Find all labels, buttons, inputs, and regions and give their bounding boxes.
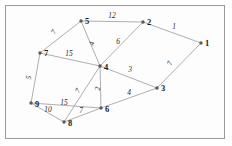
graph-figure: 1217746155327151074 123456789 bbox=[0, 0, 232, 146]
graph-canvas: 1217746155327151074 123456789 bbox=[0, 0, 232, 146]
edge-weight-label: 4 bbox=[127, 88, 131, 97]
node-label: 2 bbox=[147, 17, 151, 27]
graph-node bbox=[98, 64, 101, 67]
node-label: 5 bbox=[85, 16, 89, 26]
edge-weight-label: 15 bbox=[60, 98, 68, 107]
graph-node bbox=[141, 20, 144, 23]
edge-weight-label: 7 bbox=[49, 28, 59, 36]
node-label: 4 bbox=[104, 62, 109, 72]
graph-edge bbox=[81, 21, 143, 22]
edge-weight-label: 7 bbox=[165, 60, 175, 67]
edge-weight-label: 7 bbox=[73, 87, 83, 95]
node-label: 8 bbox=[68, 118, 72, 128]
graph-edge bbox=[100, 22, 143, 66]
edge-labels-group: 1217746155327151074 bbox=[24, 11, 176, 115]
edge-weight-label: 3 bbox=[127, 65, 132, 74]
graph-edge bbox=[157, 43, 201, 88]
edge-weight-label: 6 bbox=[116, 37, 120, 46]
graph-node bbox=[155, 86, 158, 89]
edge-weight-label: 1 bbox=[172, 22, 176, 31]
node-label: 9 bbox=[35, 99, 39, 109]
graph-node bbox=[79, 19, 82, 22]
graph-node bbox=[99, 106, 102, 109]
edge-weight-label: 15 bbox=[65, 49, 73, 58]
node-label: 6 bbox=[105, 104, 109, 114]
graph-edge bbox=[100, 66, 101, 108]
node-label: 1 bbox=[205, 38, 209, 48]
edge-weight-label: 7 bbox=[79, 106, 83, 115]
edge-weight-label: 12 bbox=[108, 11, 116, 20]
node-label: 7 bbox=[44, 48, 49, 58]
node-label: 3 bbox=[161, 83, 165, 93]
node-labels-group: 123456789 bbox=[35, 16, 209, 128]
edge-weight-label: 10 bbox=[44, 105, 52, 114]
graph-node bbox=[199, 41, 202, 44]
graph-node bbox=[38, 51, 41, 54]
edge-weight-label: 4 bbox=[87, 41, 97, 47]
graph-node bbox=[62, 120, 65, 123]
graph-node bbox=[29, 101, 32, 104]
edge-weight-label: 5 bbox=[24, 75, 33, 80]
